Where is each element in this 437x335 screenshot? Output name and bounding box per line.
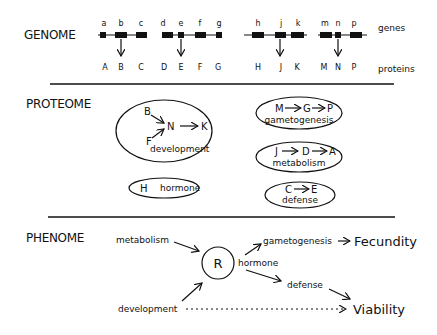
trait-gametogenesis: gametogenesis [263, 236, 332, 246]
protein-label: B [118, 63, 124, 72]
node: N [167, 121, 174, 132]
gene-label: j [279, 19, 282, 28]
node: M [275, 103, 284, 114]
node: B [144, 106, 151, 117]
protein-labels: A B C D E F G H J K M N P [102, 63, 356, 72]
section-title-phenome: PHENOME [26, 231, 84, 245]
genome-proteome-phenome-diagram: GENOME a b c d e f g h j k m n p genes [0, 0, 437, 335]
hormone-label: hormone [238, 258, 279, 268]
pathway-hormone: H hormone [129, 178, 201, 198]
section-title-proteome: PROTEOME [26, 97, 91, 111]
protein-label: F [198, 63, 203, 72]
protein-label: K [294, 63, 300, 72]
gene-label: e [179, 19, 184, 28]
gene-label: k [296, 19, 301, 28]
node: H [140, 183, 148, 194]
proteins-label: proteins [378, 64, 415, 74]
pathway-gametogenesis: M G P gametogenesis [256, 97, 342, 129]
chromosome-1 [98, 32, 147, 38]
gene-label: a [102, 19, 107, 28]
node: C [285, 184, 292, 195]
protein-label: C [138, 63, 144, 72]
gene-label: d [160, 19, 165, 28]
section-title-genome: GENOME [24, 28, 75, 42]
chromosome-3 [244, 32, 307, 38]
node: K [201, 121, 208, 132]
protein-label: A [102, 63, 108, 72]
trait-metabolism: metabolism [116, 235, 169, 245]
protein-label: D [161, 63, 167, 72]
trait-defense: defense [287, 280, 323, 290]
protein-label: E [178, 63, 183, 72]
pathway-metabolism: J D A metabolism [256, 142, 342, 172]
node: P [327, 103, 333, 114]
gene-label: n [335, 19, 340, 28]
protein-label: J [279, 63, 282, 72]
gene-label: f [199, 19, 202, 28]
protein-label: G [215, 63, 221, 72]
protein-label: H [255, 63, 261, 72]
node: J [274, 146, 278, 157]
regulator-label: R [213, 256, 222, 271]
gene-label: b [118, 19, 123, 28]
chromosome-2 [162, 32, 222, 38]
node: A [329, 146, 336, 157]
pathway-label: defense [282, 195, 318, 205]
pathway-label: hormone [160, 183, 201, 193]
node: D [302, 146, 310, 157]
gene-label: g [216, 19, 221, 28]
pathway-label: development [150, 144, 210, 154]
protein-label: M [321, 63, 328, 72]
outcome-viability: Viability [353, 302, 405, 317]
pathway-development: B F N K development [116, 100, 212, 162]
phenome-network: metabolism R development hormone gametog… [116, 234, 417, 317]
outcome-fecundity: Fecundity [354, 234, 417, 249]
trait-development: development [118, 304, 178, 314]
genes-label: genes [378, 23, 405, 33]
chromosome-4 [318, 32, 367, 38]
node: E [311, 184, 317, 195]
protein-label: N [335, 63, 341, 72]
pathway-label: gametogenesis [265, 115, 334, 125]
gene-label: m [321, 19, 329, 28]
pathway-label: metabolism [272, 158, 325, 168]
gene-label: c [139, 19, 143, 28]
protein-label: P [352, 63, 357, 72]
gene-label: p [351, 19, 356, 28]
gene-label: h [255, 19, 260, 28]
expression-arrows [121, 39, 338, 56]
pathway-defense: C E defense [265, 182, 335, 208]
gene-labels: a b c d e f g h j k m n p [102, 19, 357, 28]
node: G [303, 103, 311, 114]
